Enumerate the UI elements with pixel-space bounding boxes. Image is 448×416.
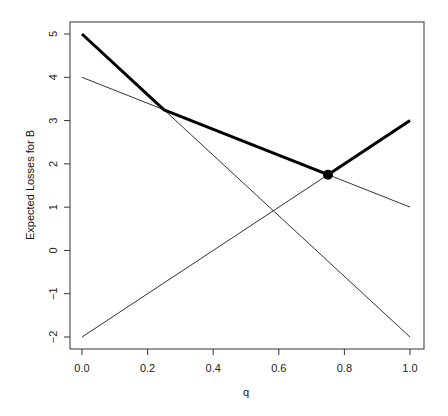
- y-tick-label: 0: [47, 247, 59, 253]
- x-tick-label: 0.4: [206, 362, 221, 374]
- y-tick-label: 3: [47, 118, 59, 124]
- y-tick-label: −2: [47, 331, 59, 344]
- annotation-points: [323, 170, 333, 180]
- x-axis: 0.00.20.40.60.81.0: [74, 349, 417, 374]
- x-tick-label: 0.0: [74, 362, 89, 374]
- y-tick-label: −1: [47, 287, 59, 300]
- upper-envelope-line: [82, 34, 410, 175]
- chart: 0.00.20.40.60.81.0 −2−1012345 q Expected…: [0, 0, 448, 416]
- minimum-point-marker: [323, 170, 333, 180]
- y-tick-label: 1: [47, 204, 59, 210]
- y-tick-label: 4: [47, 74, 59, 80]
- x-tick-label: 0.2: [140, 362, 155, 374]
- y-tick-label: 2: [47, 161, 59, 167]
- x-tick-label: 0.6: [271, 362, 286, 374]
- series-group: [82, 34, 410, 337]
- y-axis-label: Expected Losses for B: [24, 130, 36, 240]
- y-axis: −2−1012345: [47, 31, 70, 343]
- x-tick-label: 1.0: [402, 362, 417, 374]
- y-tick-label: 5: [47, 31, 59, 37]
- x-tick-label: 0.8: [337, 362, 352, 374]
- x-axis-label: q: [243, 386, 249, 398]
